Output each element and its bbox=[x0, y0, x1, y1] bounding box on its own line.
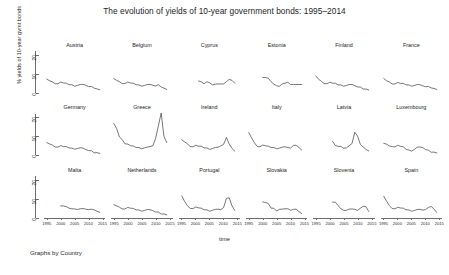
chart-caption: Graphs by Country bbox=[30, 249, 82, 256]
x-tick-label: 2010 bbox=[353, 221, 362, 226]
panel-title: Netherlands bbox=[108, 167, 175, 173]
series-line-belgium bbox=[114, 78, 167, 89]
panel-belgium: Belgium bbox=[108, 42, 175, 105]
x-axis-group: 1995200020052010201519952000200520102015… bbox=[41, 218, 445, 236]
chart-root: The evolution of yields of 10-year gover… bbox=[0, 0, 449, 275]
x-tick-label: 2015 bbox=[165, 221, 174, 226]
panel-title: Finland bbox=[310, 42, 377, 48]
x-tick-label: 2005 bbox=[70, 221, 79, 226]
panel-title: Ireland bbox=[176, 104, 243, 110]
panel-title: Spain bbox=[378, 167, 445, 173]
x-tick-label: 2005 bbox=[407, 221, 416, 226]
chart-title: The evolution of yields of 10-year gover… bbox=[0, 6, 449, 16]
panel-title: Slovenia bbox=[310, 167, 377, 173]
plot-area bbox=[111, 176, 172, 218]
plot-area bbox=[44, 51, 105, 93]
series-line-germany bbox=[47, 142, 100, 153]
series-line-malta bbox=[61, 206, 100, 212]
x-axis-col-5: 19952000200520102015 bbox=[310, 218, 377, 236]
x-tick-label: 1995 bbox=[244, 221, 253, 226]
x-tick-label: 2015 bbox=[233, 221, 242, 226]
plot-area bbox=[179, 176, 240, 218]
panel-title: Luxembourg bbox=[378, 104, 445, 110]
y-tick-label: 10 bbox=[31, 74, 37, 80]
plot-area bbox=[313, 51, 374, 93]
x-axis-col-3: 19952000200520102015 bbox=[176, 218, 243, 236]
panel-cyprus: Cyprus bbox=[176, 42, 243, 105]
series-line-france bbox=[383, 78, 436, 89]
series-line-estonia bbox=[263, 78, 302, 87]
y-tick-label: 0 bbox=[31, 218, 37, 221]
y-tick-label: 10 bbox=[31, 136, 37, 142]
series-line-cyprus bbox=[198, 79, 234, 84]
series-line-netherlands bbox=[114, 205, 167, 215]
plot-area bbox=[111, 51, 172, 93]
series-line-greece bbox=[114, 113, 167, 149]
x-tick-label: 2010 bbox=[219, 221, 228, 226]
x-axis-col-2: 19952000200520102015 bbox=[108, 218, 175, 236]
x-tick-label: 2015 bbox=[367, 221, 376, 226]
series-line-austria bbox=[47, 79, 100, 90]
plot-area bbox=[381, 51, 442, 93]
plot-area bbox=[246, 51, 307, 93]
x-tick-label: 2015 bbox=[435, 221, 444, 226]
panel-title: Portugal bbox=[176, 167, 243, 173]
x-axis-col-4: 19952000200520102015 bbox=[243, 218, 310, 236]
x-tick-label: 2000 bbox=[56, 221, 65, 226]
plot-area bbox=[381, 176, 442, 218]
series-line-luxembourg bbox=[383, 143, 436, 153]
x-tick-label: 2005 bbox=[339, 221, 348, 226]
series-line-italy bbox=[249, 132, 302, 150]
x-axis-title: time bbox=[0, 236, 449, 242]
x-tick-label: 1995 bbox=[110, 221, 119, 226]
y-tick-label: 0 bbox=[31, 93, 37, 96]
panel-title: Greece bbox=[108, 104, 175, 110]
series-line-finland bbox=[316, 76, 369, 90]
panel-germany: Germany bbox=[41, 105, 108, 168]
y-tick-label: 20 bbox=[31, 55, 37, 61]
plot-area bbox=[313, 114, 374, 156]
panel-title: Estonia bbox=[243, 42, 310, 48]
x-tick-label: 2005 bbox=[205, 221, 214, 226]
panel-italy: Italy bbox=[243, 105, 310, 168]
panel-title: Latvia bbox=[310, 104, 377, 110]
x-tick-label: 2015 bbox=[98, 221, 107, 226]
panel-latvia: Latvia bbox=[310, 105, 377, 168]
plot-area bbox=[44, 176, 105, 218]
plot-area bbox=[179, 114, 240, 156]
panel-title: Germany bbox=[41, 104, 108, 110]
series-line-slovakia bbox=[263, 202, 302, 214]
panel-title: France bbox=[378, 42, 445, 48]
series-line-portugal bbox=[181, 196, 234, 211]
y-axis-row-1: 01020 bbox=[0, 42, 41, 105]
panel-title: Slovakia bbox=[243, 167, 310, 173]
series-line-latvia bbox=[333, 132, 369, 151]
x-tick-label: 1995 bbox=[379, 221, 388, 226]
x-tick-label: 2000 bbox=[393, 221, 402, 226]
plot-area bbox=[111, 114, 172, 156]
panel-estonia: Estonia bbox=[243, 42, 310, 105]
plot-area bbox=[246, 114, 307, 156]
panel-title: Italy bbox=[243, 104, 310, 110]
y-tick-label: 0 bbox=[31, 155, 37, 158]
y-tick-label: 10 bbox=[31, 199, 37, 205]
x-axis-col-6: 19952000200520102015 bbox=[378, 218, 445, 236]
y-tick-label: 20 bbox=[31, 117, 37, 123]
x-tick-label: 1995 bbox=[42, 221, 51, 226]
y-tick-label: 20 bbox=[31, 180, 37, 186]
x-tick-label: 2005 bbox=[272, 221, 281, 226]
x-tick-label: 2000 bbox=[325, 221, 334, 226]
panel-ireland: Ireland bbox=[176, 105, 243, 168]
x-tick-label: 2015 bbox=[300, 221, 309, 226]
plot-area bbox=[246, 176, 307, 218]
x-tick-label: 2000 bbox=[191, 221, 200, 226]
x-tick-label: 2010 bbox=[421, 221, 430, 226]
x-tick-label: 2010 bbox=[151, 221, 160, 226]
panel-france: France bbox=[378, 42, 445, 105]
x-tick-label: 2010 bbox=[84, 221, 93, 226]
plot-area bbox=[381, 114, 442, 156]
y-axis-row-3: 01020 bbox=[0, 167, 41, 230]
panel-title: Malta bbox=[41, 167, 108, 173]
plot-area bbox=[313, 176, 374, 218]
plot-area bbox=[179, 51, 240, 93]
